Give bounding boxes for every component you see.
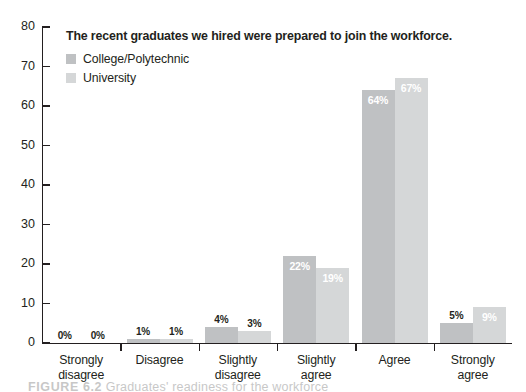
y-axis-tick-label: 50 bbox=[8, 139, 35, 152]
bar-value-label: 5% bbox=[440, 310, 473, 321]
bar-value-label: 1% bbox=[127, 326, 160, 337]
y-axis-tick-label: 80 bbox=[8, 20, 35, 33]
bar-university bbox=[160, 339, 193, 343]
y-axis-tick-label: 0 bbox=[8, 336, 35, 349]
x-axis-category-label: Agree bbox=[355, 353, 433, 368]
x-axis-category-label: Stronglydisagree bbox=[42, 353, 120, 382]
bar-university bbox=[395, 78, 428, 343]
x-axis-category-label: Slightlyagree bbox=[277, 353, 355, 382]
x-axis-label-line: Slightly bbox=[199, 353, 277, 368]
figure-caption: FIGURE 6.2 Graduates' readiness for the … bbox=[28, 380, 328, 392]
y-axis-tick-label: 10 bbox=[8, 297, 35, 310]
x-axis-category-label: Disagree bbox=[120, 353, 198, 368]
bar-university bbox=[238, 331, 271, 343]
bar-value-label: 1% bbox=[160, 326, 193, 337]
bar-value-label: 67% bbox=[395, 82, 428, 94]
x-axis-separator-tick bbox=[199, 344, 200, 351]
y-axis-tick-label: 30 bbox=[8, 218, 35, 231]
x-axis-separator-tick bbox=[277, 344, 278, 351]
bar-value-label: 19% bbox=[316, 272, 349, 284]
y-axis-tick-label: 60 bbox=[8, 99, 35, 112]
bar-value-label: 22% bbox=[283, 260, 316, 272]
figure-caption-number: FIGURE 6.2 bbox=[28, 380, 102, 392]
bar-value-label: 3% bbox=[238, 318, 271, 329]
bar-value-label: 64% bbox=[362, 94, 395, 106]
y-axis-tick-label: 20 bbox=[8, 257, 35, 270]
figure-caption-text: Graduates' readiness for the workforce bbox=[106, 380, 329, 392]
x-axis-category-label: Stronglyagree bbox=[434, 353, 512, 382]
bar-college-polytechnic bbox=[440, 323, 473, 343]
x-axis-separator-tick bbox=[355, 344, 356, 351]
y-axis-tick-label: 70 bbox=[8, 60, 35, 73]
figure-container: The recent graduates we hired were prepa… bbox=[0, 0, 526, 392]
bar-college-polytechnic bbox=[205, 327, 238, 343]
x-axis-category-label: Slightlydisagree bbox=[199, 353, 277, 382]
bar-value-label: 0% bbox=[48, 330, 81, 341]
x-axis-label-line: Slightly bbox=[277, 353, 355, 368]
x-axis-separator-tick bbox=[434, 344, 435, 351]
bar-value-label: 4% bbox=[205, 314, 238, 325]
x-axis-label-line: Agree bbox=[355, 353, 433, 368]
x-axis-separator-tick bbox=[120, 344, 121, 351]
x-axis-label-line: Strongly bbox=[42, 353, 120, 368]
x-axis-label-line: Disagree bbox=[120, 353, 198, 368]
y-axis-tick-label: 40 bbox=[8, 178, 35, 191]
x-axis-label-line: agree bbox=[434, 368, 512, 383]
bar-value-label: 0% bbox=[81, 330, 114, 341]
x-axis-label-line: Strongly bbox=[434, 353, 512, 368]
bar-value-label: 9% bbox=[473, 311, 506, 323]
plot-area: 0%0%1%1%4%3%22%19%64%67%5%9% bbox=[42, 27, 512, 343]
bar-college-polytechnic bbox=[127, 339, 160, 343]
bar-college-polytechnic bbox=[362, 90, 395, 343]
